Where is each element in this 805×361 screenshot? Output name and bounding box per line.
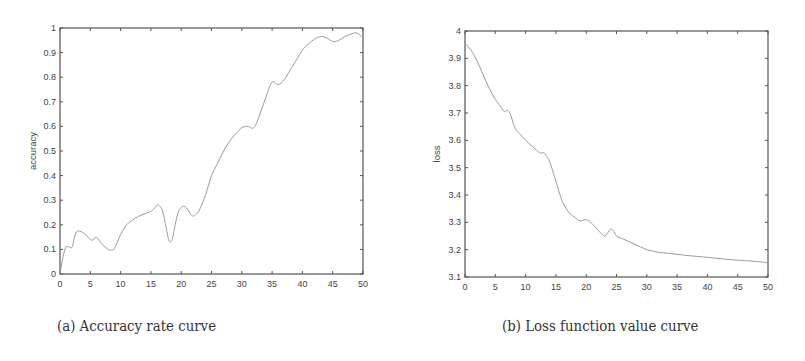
y-tick-label: 4 [456,26,461,36]
x-tick-label: 10 [116,279,126,289]
x-tick-label: 45 [328,279,338,289]
x-tick-label: 50 [763,282,773,292]
y-tick-label: 0.6 [43,121,56,131]
x-tick-label: 0 [462,282,467,292]
x-tick-label: 25 [611,282,621,292]
x-tick-label: 50 [358,279,368,289]
x-tick-label: 15 [146,279,156,289]
y-tick-label: 3.4 [448,190,461,200]
x-tick-label: 25 [206,279,216,289]
y-tick-label: 0.9 [43,48,56,58]
loss-plot-frame [465,31,768,277]
y-tick-label: 0.2 [43,220,56,230]
loss-chart: 051015202530354045503.13.23.33.43.53.63.… [400,0,805,300]
y-tick-label: 3.3 [448,217,461,227]
loss-chart-panel: 051015202530354045503.13.23.33.43.53.63.… [400,0,805,300]
x-tick-label: 45 [733,282,743,292]
y-tick-label: 0.4 [43,171,56,181]
x-tick-label: 40 [702,282,712,292]
x-tick-label: 15 [551,282,561,292]
y-tick-label: 3.9 [448,53,461,63]
y-tick-label: 0.3 [43,195,56,205]
x-tick-label: 20 [176,279,186,289]
y-tick-label: 0.5 [43,146,56,156]
y-tick-label: 0.1 [43,244,56,254]
accuracy-y-axis-label: accuracy [27,132,38,170]
y-tick-label: 3.6 [448,135,461,145]
accuracy-chart: 0510152025303540455000.10.20.30.40.50.60… [0,0,400,300]
y-tick-label: 3.8 [448,81,461,91]
x-tick-label: 30 [237,279,247,289]
y-tick-label: 0.7 [43,97,56,107]
x-tick-label: 5 [88,279,93,289]
x-tick-label: 0 [57,279,62,289]
accuracy-curve [60,33,363,274]
x-tick-label: 40 [297,279,307,289]
loss-curve [465,43,768,262]
x-tick-label: 35 [672,282,682,292]
accuracy-chart-panel: 0510152025303540455000.10.20.30.40.50.60… [0,0,400,300]
y-tick-label: 3.5 [448,163,461,173]
y-tick-label: 0 [51,269,56,279]
y-tick-label: 1 [51,23,56,33]
y-tick-label: 3.7 [448,108,461,118]
y-tick-label: 0.8 [43,72,56,82]
accuracy-plot-frame [60,28,363,274]
loss-y-axis-label: loss [431,145,442,162]
x-tick-label: 5 [493,282,498,292]
y-tick-label: 3.1 [448,272,461,282]
accuracy-chart-caption: (a) Accuracy rate curve [57,318,216,334]
x-tick-label: 20 [581,282,591,292]
x-tick-label: 30 [642,282,652,292]
y-tick-label: 3.2 [448,245,461,255]
x-tick-label: 35 [267,279,277,289]
x-tick-label: 10 [521,282,531,292]
loss-chart-caption: (b) Loss function value curve [502,318,698,334]
